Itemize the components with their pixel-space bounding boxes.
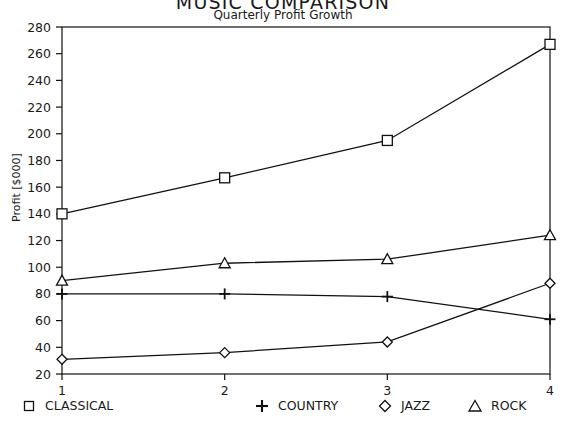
marker-plus-icon: [255, 399, 269, 413]
legend-label: CLASSICAL: [45, 398, 113, 413]
plot-area: 2040608010012014016018020022024026028012…: [62, 27, 550, 374]
marker-diamond: [545, 278, 555, 288]
x-tick-label: 3: [383, 383, 391, 398]
y-tick-label: 80: [35, 286, 51, 301]
marker-square: [382, 135, 392, 145]
y-tick-label: 260: [27, 46, 51, 61]
y-tick-label: 240: [27, 73, 51, 88]
marker-diamond: [220, 348, 230, 358]
x-tick-label: 1: [58, 383, 66, 398]
marker-square-icon: [22, 399, 36, 413]
y-tick-label: 60: [35, 313, 51, 328]
series-line: [62, 44, 550, 213]
y-axis-label: Profit [$000]: [10, 118, 23, 258]
x-tick-label: 2: [221, 383, 229, 398]
series-line: [62, 294, 550, 319]
y-tick-label: 100: [27, 260, 51, 275]
chart-canvas: 2040608010012014016018020022024026028012…: [62, 27, 550, 374]
series-rock: [57, 230, 556, 285]
y-tick-label: 120: [27, 233, 51, 248]
marker-square: [220, 173, 230, 183]
marker-diamond: [57, 354, 67, 364]
marker-triangle: [545, 230, 556, 240]
series-country: [57, 288, 556, 324]
legend-item-rock[interactable]: ROCK: [468, 398, 526, 413]
legend-item-country[interactable]: COUNTRY: [255, 398, 338, 413]
plot-frame: [62, 27, 550, 374]
marker-triangle-icon: [468, 399, 482, 413]
series-line: [62, 235, 550, 280]
legend-label: ROCK: [491, 398, 526, 413]
y-tick-label: 200: [27, 126, 51, 141]
legend-label: JAZZ: [401, 398, 430, 413]
marker-square: [545, 39, 555, 49]
y-tick-label: 280: [27, 20, 51, 35]
legend-item-jazz[interactable]: JAZZ: [378, 398, 430, 413]
y-tick-label: 220: [27, 100, 51, 115]
y-tick-label: 20: [35, 367, 51, 382]
marker-diamond: [382, 337, 392, 347]
y-tick-label: 40: [35, 340, 51, 355]
x-tick-label: 4: [546, 383, 554, 398]
series-jazz: [57, 278, 555, 364]
series-classical: [57, 39, 555, 218]
chart-page: MUSIC COMPARISON Quarterly Profit Growth…: [0, 0, 566, 425]
chart-subtitle: Quarterly Profit Growth: [0, 8, 566, 22]
y-tick-label: 160: [27, 180, 51, 195]
marker-square: [57, 209, 67, 219]
y-tick-label: 180: [27, 153, 51, 168]
legend-item-classical[interactable]: CLASSICAL: [22, 398, 113, 413]
marker-diamond-icon: [378, 399, 392, 413]
y-tick-label: 140: [27, 206, 51, 221]
chart-legend: CLASSICALCOUNTRYJAZZROCK: [0, 398, 566, 422]
legend-label: COUNTRY: [278, 398, 338, 413]
